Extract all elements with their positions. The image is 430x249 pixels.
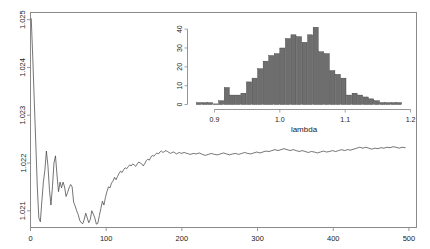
figure-background xyxy=(0,0,430,249)
histogram-bar xyxy=(313,27,318,104)
inset-x-tick-label: 1.2 xyxy=(406,116,416,123)
histogram-bar xyxy=(319,52,324,105)
histogram-bar xyxy=(280,48,285,105)
histogram-bar xyxy=(263,61,268,104)
histogram-bar xyxy=(202,103,207,105)
histogram-bar xyxy=(374,101,379,105)
histogram-bar xyxy=(302,42,307,104)
histogram-bar xyxy=(274,54,279,105)
histogram-bar xyxy=(246,82,251,105)
main-y-tick-label: 1.023 xyxy=(19,106,28,125)
histogram-bar xyxy=(369,99,374,105)
main-x-tick-label: 300 xyxy=(251,234,264,243)
inset-y-tick-label: 40 xyxy=(176,25,183,33)
inset-y-tick-label: 30 xyxy=(176,44,183,52)
inset-y-tick-label: 0 xyxy=(176,102,183,106)
histogram-bar xyxy=(380,103,385,105)
histogram-bar xyxy=(363,97,368,105)
histogram-bar xyxy=(258,69,263,105)
histogram-bar xyxy=(291,35,296,105)
inset-y-tick-label: 10 xyxy=(176,82,183,90)
histogram-bar xyxy=(196,103,201,105)
main-y-tick-label: 1.024 xyxy=(19,58,28,77)
main-x-tick-label: 500 xyxy=(403,234,416,243)
histogram-bar xyxy=(219,101,224,105)
histogram-bar xyxy=(335,74,340,104)
histogram-bar xyxy=(385,103,390,105)
histogram-bar xyxy=(391,103,396,105)
inset-y-tick-label: 20 xyxy=(176,63,183,71)
main-x-tick-label: 0 xyxy=(28,234,32,243)
main-x-tick-label: 100 xyxy=(100,234,113,243)
inset-x-tick-label: 0.9 xyxy=(210,116,220,123)
histogram-bar xyxy=(224,88,229,105)
histogram-bar xyxy=(296,37,301,105)
inset-x-tick-label: 1.1 xyxy=(340,116,350,123)
histogram-bar xyxy=(347,95,352,104)
histogram-bar xyxy=(208,103,213,105)
histogram-bar xyxy=(230,95,235,104)
main-x-tick-label: 200 xyxy=(176,234,189,243)
inset-x-axis-title: lambda xyxy=(291,125,318,134)
main-y-tick-label: 1.021 xyxy=(19,201,28,220)
inset-x-tick-label: 1.0 xyxy=(275,116,285,123)
main-y-tick-label: 1.022 xyxy=(19,154,28,173)
histogram-bar xyxy=(252,78,257,104)
histogram-bar xyxy=(241,93,246,104)
main-x-tick-label: 400 xyxy=(327,234,340,243)
histogram-bar xyxy=(352,93,357,104)
histogram-bar xyxy=(324,54,329,105)
histogram-bar xyxy=(213,104,218,105)
histogram-bar xyxy=(308,35,313,105)
figure-canvas: 1.0211.0221.0231.0241.025 01002003004005… xyxy=(0,0,430,249)
histogram-bar xyxy=(397,103,402,105)
histogram-bar xyxy=(358,95,363,104)
histogram-bar xyxy=(235,95,240,104)
histogram-bar xyxy=(330,71,335,105)
histogram-bar xyxy=(285,39,290,105)
histogram-bar xyxy=(269,56,274,105)
histogram-bar xyxy=(341,78,346,104)
main-y-tick-label: 1.025 xyxy=(19,10,28,29)
